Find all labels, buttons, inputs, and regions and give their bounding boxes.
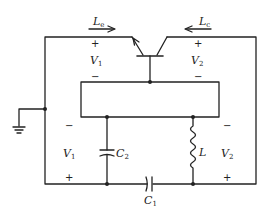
v2-bottom-label: V2 [221, 147, 233, 161]
transistor-symbol [132, 37, 167, 82]
v2-top-plus: + [194, 38, 202, 49]
v1-top-plus: + [91, 38, 99, 49]
v1-bottom-minus: − [65, 120, 73, 131]
circuit-diagram: Le Lc + V1 − + V2 − − V1 + − V2 + C2 L C… [0, 0, 269, 218]
c2-label: C2 [116, 147, 129, 161]
ground-icon [13, 127, 25, 133]
two-port-box [81, 82, 219, 117]
v2-top-minus: − [194, 71, 202, 82]
v2-bottom-plus: + [223, 172, 231, 183]
label-emitter-current: Le [92, 15, 104, 29]
emitter-wire [45, 37, 132, 184]
c1-label: C1 [144, 194, 157, 208]
collector-wire [167, 37, 256, 184]
v1-top-label: V1 [90, 54, 102, 68]
v2-bottom-minus: − [223, 120, 231, 131]
v1-bottom-plus: + [65, 172, 73, 183]
ground-wire [19, 109, 45, 126]
junction-dots [43, 80, 195, 186]
inductor-coil [191, 117, 196, 184]
label-collector-current: Lc [198, 15, 210, 29]
v1-bottom-label: V1 [63, 147, 75, 161]
v2-top-label: V2 [191, 54, 203, 68]
v1-top-minus: − [91, 71, 99, 82]
inductor-label: L [198, 146, 206, 159]
